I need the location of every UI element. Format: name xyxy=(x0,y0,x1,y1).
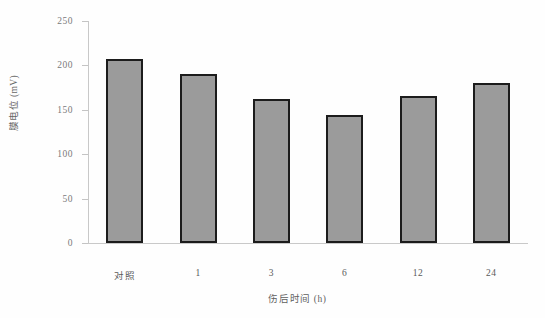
x-tick-label: 1 xyxy=(195,268,200,278)
x-axis-title: 伤后时间 (h) xyxy=(0,291,545,305)
y-tick: 100 xyxy=(82,154,88,155)
x-tick-label: 6 xyxy=(342,268,347,278)
y-tick: 200 xyxy=(82,65,88,66)
bar xyxy=(400,96,437,243)
x-tick-label: 3 xyxy=(269,268,274,278)
bar xyxy=(106,59,143,243)
y-tick-label: 100 xyxy=(57,149,73,159)
y-tick: 50 xyxy=(82,199,88,200)
y-tick: 250 xyxy=(82,21,88,22)
x-tick-label: 24 xyxy=(486,268,497,278)
y-tick: 0 xyxy=(82,243,88,244)
chart-figure: 膜电位 (mV) 050100150200250 对照1361224 伤后时间 … xyxy=(0,0,545,318)
bar xyxy=(253,99,290,243)
bar xyxy=(326,115,363,243)
y-tick-label: 150 xyxy=(57,105,73,115)
bar xyxy=(473,83,510,243)
plot-area: 050100150200250 对照1361224 xyxy=(88,21,528,243)
y-tick-label: 200 xyxy=(57,60,73,70)
x-tick-label: 12 xyxy=(413,268,424,278)
y-tick: 150 xyxy=(82,110,88,111)
bar xyxy=(180,74,217,243)
y-tick-label: 250 xyxy=(57,16,73,26)
y-axis-line xyxy=(88,21,89,244)
y-axis-title: 膜电位 (mV) xyxy=(6,55,20,151)
x-tick-label: 对照 xyxy=(114,268,135,282)
y-tick-label: 50 xyxy=(63,194,74,204)
y-tick-label: 0 xyxy=(68,238,73,248)
x-axis-line xyxy=(88,243,528,244)
